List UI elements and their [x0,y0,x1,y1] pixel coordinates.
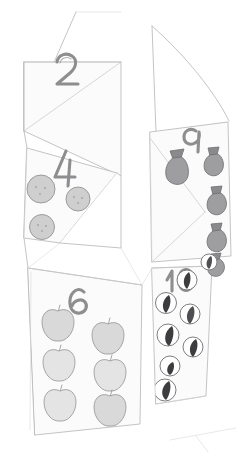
bean-circle-icon [160,356,180,376]
ball-face-icon [66,187,90,211]
drawing-canvas [0,0,240,458]
ball-face-icon [30,215,55,240]
bean-circle-icon [183,337,203,357]
bean-circle-icon [154,379,176,401]
bean-circle-icon [201,254,217,270]
panel-10-items-overflow [201,254,217,270]
ball-face-icon [27,175,55,203]
bean-circle-icon [177,270,197,290]
stray-line-bottom-right [170,428,236,440]
bean-circle-icon [180,304,200,324]
bean-circle-icon [156,293,177,314]
bean-circle-icon [157,324,179,346]
